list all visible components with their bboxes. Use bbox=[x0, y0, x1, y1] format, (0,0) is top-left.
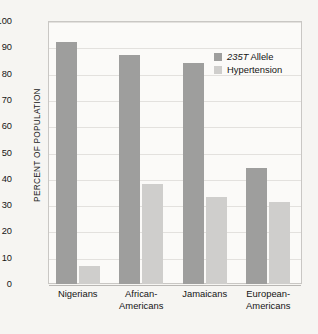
x-tick-label-line1: African- bbox=[125, 288, 157, 299]
bar-group bbox=[56, 21, 100, 284]
legend-item-hypertension: Hypertension bbox=[214, 63, 282, 76]
legend-label-allele-italic: 235T bbox=[227, 51, 248, 62]
bar bbox=[142, 184, 163, 284]
y-axis-title: PERCENT OF POPULATION bbox=[32, 45, 42, 245]
y-tick-label-80: 80 bbox=[0, 69, 12, 79]
y-tick-label-50: 50 bbox=[0, 148, 12, 158]
y-tick-label-90: 90 bbox=[0, 42, 12, 52]
bar bbox=[269, 202, 290, 284]
x-tick-label: European-Americans bbox=[231, 288, 305, 311]
bar bbox=[56, 42, 77, 284]
legend-item-allele: 235T Allele bbox=[214, 50, 282, 63]
bar bbox=[206, 197, 227, 284]
y-tick-label-0: 0 bbox=[0, 279, 12, 289]
legend-label-hypertension: Hypertension bbox=[227, 64, 282, 75]
bar bbox=[79, 266, 100, 284]
legend-swatch-allele-icon bbox=[214, 53, 222, 61]
y-tick-label-30: 30 bbox=[0, 200, 12, 210]
legend: 235T Allele Hypertension bbox=[214, 50, 282, 76]
y-tick-label-100: 100 bbox=[0, 16, 12, 26]
bar-chart: PERCENT OF POPULATION 100908070605040302… bbox=[0, 0, 318, 334]
x-tick-label-line1: European- bbox=[246, 288, 290, 299]
x-tick-label-line2: Americans bbox=[104, 300, 178, 312]
y-tick-label-60: 60 bbox=[0, 121, 12, 131]
x-tick-label-line1: Nigerians bbox=[58, 288, 98, 299]
legend-label-allele: 235T Allele bbox=[227, 51, 273, 62]
legend-label-allele-plain: Allele bbox=[248, 51, 273, 62]
legend-swatch-hypertension-icon bbox=[214, 66, 222, 74]
bar bbox=[246, 168, 267, 284]
x-axis-category-labels: NigeriansAfrican-AmericansJamaicansEurop… bbox=[48, 288, 302, 332]
bar-group bbox=[119, 21, 163, 284]
x-tick-label-line2: Americans bbox=[231, 300, 305, 312]
y-tick-label-20: 20 bbox=[0, 226, 12, 236]
y-tick-label-40: 40 bbox=[0, 174, 12, 184]
bar bbox=[119, 55, 140, 284]
y-tick-label-70: 70 bbox=[0, 95, 12, 105]
x-tick-label-line1: Jamaicans bbox=[182, 288, 227, 299]
gridline-0 bbox=[49, 285, 301, 286]
bar bbox=[183, 63, 204, 284]
y-tick-label-10: 10 bbox=[0, 253, 12, 263]
